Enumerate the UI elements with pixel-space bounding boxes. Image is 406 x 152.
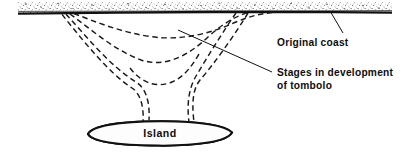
stage-curve-1 [74, 13, 272, 38]
leader-original-coast [331, 13, 343, 33]
tombolo-diagram: Island Original coast Stages in developm… [0, 0, 406, 152]
island-label: Island [143, 127, 176, 139]
island-shape: Island [86, 119, 236, 149]
stages-label-line1: Stages in development [277, 67, 394, 78]
diagram-canvas: Island Original coast Stages in developm… [0, 0, 406, 152]
stage-curve-2 [70, 13, 248, 63]
annotation-labels: Original coast Stages in development of … [277, 37, 394, 91]
stage-curve-inner-loop [130, 54, 199, 85]
stage-curve-3 [66, 14, 149, 120]
stage-curves [62, 13, 272, 122]
stage-curve-3b [188, 13, 236, 122]
original-coast-label: Original coast [277, 37, 349, 48]
stages-label-line2: of tombolo [277, 80, 332, 91]
original-coast-line [18, 11, 392, 14]
